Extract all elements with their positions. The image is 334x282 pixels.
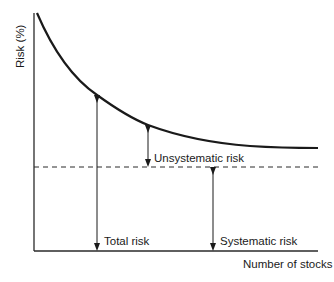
y-axis-label: Risk (%) bbox=[14, 24, 26, 68]
risk-diversification-diagram: Risk (%) Number of stocks Total risk Uns… bbox=[0, 0, 334, 282]
unsystematic-risk-label: Unsystematic risk bbox=[154, 152, 244, 164]
x-axis-label: Number of stocks bbox=[243, 258, 333, 270]
total-risk-label: Total risk bbox=[104, 235, 150, 247]
total-risk-curve bbox=[37, 13, 318, 148]
systematic-risk-label: Systematic risk bbox=[220, 235, 298, 247]
